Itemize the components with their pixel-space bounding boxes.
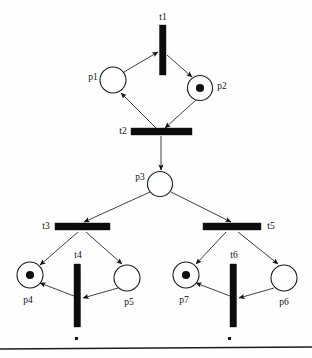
transition-label-t1: t1 bbox=[159, 12, 167, 22]
place-label-p7: p7 bbox=[179, 295, 189, 305]
arc-t3-to-p4 bbox=[40, 232, 78, 265]
place-circle-p3[interactable] bbox=[148, 172, 173, 197]
arc-line bbox=[171, 192, 231, 222]
place-p3[interactable]: p3 bbox=[135, 172, 172, 197]
transitions-layer: t1t2t3t4t5t6 bbox=[42, 12, 275, 327]
transition-label-t5: t5 bbox=[267, 221, 275, 231]
arc-line bbox=[196, 283, 230, 296]
transition-t4[interactable]: t4 bbox=[74, 250, 82, 327]
arc-line bbox=[124, 52, 158, 72]
place-circle-p1[interactable] bbox=[100, 67, 126, 93]
transition-bar-t3[interactable] bbox=[55, 223, 110, 230]
arc-line bbox=[165, 100, 196, 128]
arc-line bbox=[167, 55, 192, 77]
arc-line bbox=[40, 283, 74, 296]
arc-t5-to-p6 bbox=[238, 232, 278, 264]
arc-line bbox=[83, 288, 118, 298]
token-p7 bbox=[182, 271, 190, 279]
scan-speck-1 bbox=[228, 337, 231, 340]
arc-line bbox=[196, 232, 226, 264]
place-label-p4: p4 bbox=[23, 295, 33, 305]
place-label-p5: p5 bbox=[124, 297, 134, 307]
token-p4 bbox=[26, 271, 34, 279]
transition-t6[interactable]: t6 bbox=[230, 250, 238, 327]
place-p2[interactable]: p2 bbox=[188, 76, 228, 101]
place-p4[interactable]: p4 bbox=[17, 262, 43, 305]
place-p1[interactable]: p1 bbox=[88, 67, 126, 93]
arc-line bbox=[40, 232, 78, 265]
transition-bar-t5[interactable] bbox=[203, 223, 261, 230]
arc-p3-to-t3 bbox=[84, 192, 150, 222]
petri-net-diagram: t1t2t3t4t5t6 p1p2p3p4p5p6p7 bbox=[0, 0, 312, 358]
transition-bar-t4[interactable] bbox=[74, 264, 81, 327]
arc-t4-to-p4 bbox=[40, 283, 74, 296]
place-p6[interactable]: p6 bbox=[271, 265, 297, 307]
arc-line bbox=[239, 288, 274, 298]
scan-speck-0 bbox=[75, 337, 78, 340]
transition-bar-t6[interactable] bbox=[230, 264, 237, 327]
arc-p6-to-t6 bbox=[239, 288, 274, 298]
arc-p5-to-t4 bbox=[83, 288, 118, 298]
transition-label-t6: t6 bbox=[230, 250, 238, 260]
arc-p1-to-t1 bbox=[124, 52, 158, 72]
transition-label-t2: t2 bbox=[119, 126, 127, 136]
place-label-p6: p6 bbox=[279, 297, 289, 307]
transition-label-t3: t3 bbox=[42, 221, 50, 231]
place-circle-p6[interactable] bbox=[271, 265, 297, 291]
place-p7[interactable]: p7 bbox=[173, 262, 199, 305]
arc-line bbox=[121, 93, 156, 128]
petri-net-canvas: t1t2t3t4t5t6 p1p2p3p4p5p6p7 bbox=[0, 0, 312, 358]
arc-line bbox=[238, 232, 278, 264]
place-label-p3: p3 bbox=[135, 172, 145, 182]
arc-line bbox=[86, 232, 122, 264]
transition-label-t4: t4 bbox=[74, 250, 82, 260]
transition-bar-t2[interactable] bbox=[131, 128, 192, 135]
place-p5[interactable]: p5 bbox=[114, 265, 140, 307]
places-layer: p1p2p3p4p5p6p7 bbox=[17, 67, 297, 307]
decoration-layer bbox=[0, 337, 312, 349]
arc-t1-to-p2 bbox=[167, 55, 192, 77]
place-label-p1: p1 bbox=[88, 72, 98, 82]
transition-t5[interactable]: t5 bbox=[203, 221, 275, 231]
transition-t1[interactable]: t1 bbox=[159, 12, 167, 75]
transition-bar-t1[interactable] bbox=[160, 25, 167, 75]
arc-p2-to-t2 bbox=[165, 100, 196, 128]
arc-line bbox=[84, 192, 150, 222]
place-label-p2: p2 bbox=[217, 81, 227, 91]
place-circle-p5[interactable] bbox=[114, 265, 140, 291]
arc-p3-to-t5 bbox=[171, 192, 231, 222]
transition-t3[interactable]: t3 bbox=[42, 221, 110, 231]
arc-t2-to-p1 bbox=[121, 93, 156, 128]
arc-t6-to-p7 bbox=[196, 283, 230, 296]
page-rule bbox=[0, 347, 312, 349]
arc-t3-to-p5 bbox=[86, 232, 122, 264]
token-p2 bbox=[196, 84, 204, 92]
arc-t5-to-p7 bbox=[196, 232, 226, 264]
